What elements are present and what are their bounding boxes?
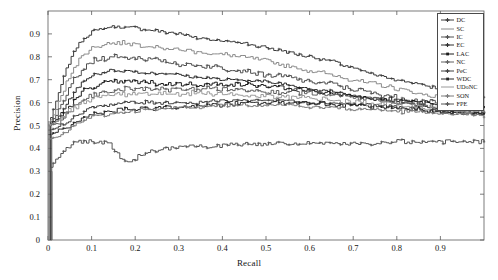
x-tick-label: 0.1 [77, 243, 107, 253]
x-tick-label: 0.4 [207, 243, 237, 253]
precision-recall-figure: Precision Recall DCSCICECLACNCPeCWDCUDoN… [0, 0, 498, 280]
legend-swatch [440, 67, 455, 75]
legend-swatch [440, 58, 455, 66]
legend-item-ic: IC [438, 33, 483, 41]
legend-item-wdc: WDC [438, 75, 483, 83]
legend-label: WDC [457, 75, 472, 83]
legend-swatch [440, 16, 455, 24]
x-tick-label: 0.9 [425, 243, 455, 253]
legend-item-sc: SC [438, 24, 483, 32]
x-tick-label: 0.2 [120, 243, 150, 253]
legend-swatch [440, 75, 455, 83]
legend-label: IC [457, 33, 463, 41]
y-tick-label: 0.6 [14, 98, 40, 108]
legend-item-son: SON [438, 92, 483, 100]
legend-item-pec: PeC [438, 66, 483, 74]
series-line-ec [48, 69, 484, 125]
plot-canvas [0, 0, 498, 280]
legend: DCSCICECLACNCPeCWDCUDoNCSONFPE [437, 13, 484, 111]
legend-swatch [440, 92, 455, 100]
y-tick-label: 0.9 [14, 29, 40, 39]
legend-label: SON [457, 92, 470, 100]
y-axis-label: Precision [12, 83, 22, 143]
y-tick-label: 0.3 [14, 166, 40, 176]
legend-item-fpe: FPE [438, 100, 483, 108]
legend-label: LAC [457, 50, 470, 58]
legend-item-ec: EC [438, 41, 483, 49]
legend-swatch [440, 50, 455, 58]
legend-item-lac: LAC [438, 50, 483, 58]
y-tick-label: 0.7 [14, 75, 40, 85]
x-tick-label: 0.6 [295, 243, 325, 253]
y-tick-label: 0.4 [14, 143, 40, 153]
legend-label: DC [457, 16, 466, 24]
y-tick-label: 0.5 [14, 121, 40, 131]
series-line-sc [48, 41, 484, 126]
legend-label: UDoNC [457, 83, 478, 91]
legend-swatch [440, 41, 455, 49]
legend-label: PeC [457, 67, 468, 75]
y-tick-label: 0.8 [14, 52, 40, 62]
x-tick-label: 0.7 [338, 243, 368, 253]
legend-label: FPE [457, 100, 468, 108]
x-tick-label: 0.3 [164, 243, 194, 253]
series-line-son [48, 103, 484, 139]
series-line-fpe [48, 140, 484, 172]
legend-item-dc: DC [438, 16, 483, 24]
legend-swatch [440, 100, 455, 108]
legend-swatch [440, 33, 455, 41]
legend-swatch [440, 25, 455, 33]
legend-label: EC [457, 41, 465, 49]
legend-item-udonc: UDoNC [438, 83, 483, 91]
x-axis-label: Recall [0, 258, 498, 268]
legend-label: SC [457, 25, 465, 33]
legend-swatch [440, 83, 455, 91]
x-tick-label: 0.8 [382, 243, 412, 253]
y-tick-label: 0.1 [14, 212, 40, 222]
y-tick-label: 0.2 [14, 189, 40, 199]
y-tick-label: 0 [14, 235, 40, 245]
legend-item-nc: NC [438, 58, 483, 66]
legend-label: NC [457, 58, 466, 66]
series-layer [48, 25, 485, 240]
x-tick-label: 0.5 [251, 243, 281, 253]
